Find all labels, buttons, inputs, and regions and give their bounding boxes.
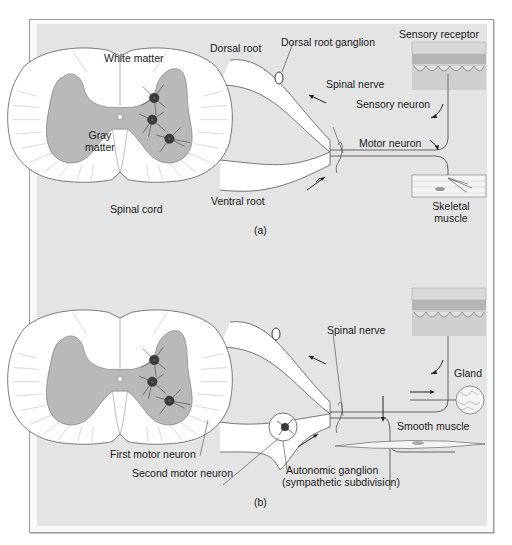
sensory-receptor-icon [412, 42, 486, 90]
label-gray-matter-line1: Gray [80, 129, 120, 141]
spinal-cord-diagram [0, 0, 512, 545]
skeletal-muscle-icon [412, 175, 486, 197]
label-ventral-root: Ventral root [211, 195, 265, 207]
label-dorsal-root: Dorsal root [210, 42, 261, 54]
caption-a: (a) [254, 224, 267, 236]
autonomic-ganglion-icon [269, 413, 297, 441]
label-first-motor-neuron: First motor neuron [110, 448, 196, 460]
label-white-matter: White matter [104, 52, 164, 64]
panel-a [8, 42, 486, 197]
label-skeletal-muscle-line2: muscle [426, 212, 476, 224]
label-sensory-receptor: Sensory receptor [399, 28, 479, 40]
label-sensory-neuron: Sensory neuron [356, 98, 430, 110]
label-spinal-nerve-a: Spinal nerve [326, 78, 384, 90]
label-autonomic-ganglion-line2: (sympathetic subdivision) [282, 476, 400, 488]
label-skeletal-muscle-line1: Skeletal [426, 200, 476, 212]
label-motor-neuron: Motor neuron [359, 137, 421, 149]
gland-icon [456, 386, 484, 414]
sensory-receptor-b-icon [412, 288, 486, 336]
label-smooth-muscle: Smooth muscle [397, 420, 469, 432]
label-spinal-cord: Spinal cord [110, 203, 163, 215]
smooth-muscle-icon [335, 440, 485, 448]
label-gland: Gland [454, 367, 482, 379]
panel-b [8, 288, 486, 490]
dorsal-root-ganglion-icon [275, 72, 283, 84]
caption-b: (b) [254, 496, 267, 508]
label-second-motor-neuron: Second motor neuron [132, 467, 233, 479]
label-spinal-nerve-b: Spinal nerve [327, 324, 385, 336]
label-autonomic-ganglion-line1: Autonomic ganglion [286, 464, 378, 476]
label-dorsal-root-ganglion: Dorsal root ganglion [281, 36, 375, 48]
label-gray-matter-line2: matter [80, 141, 120, 153]
